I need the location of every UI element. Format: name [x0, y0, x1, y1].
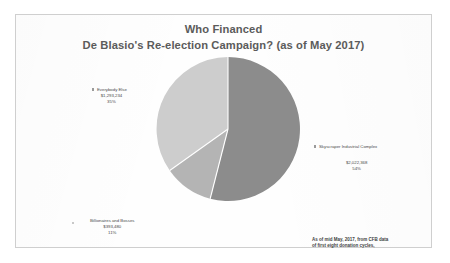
bullet-marker-icon	[72, 222, 74, 224]
pie-chart-svg	[155, 55, 301, 203]
chart-title-line-2: De Blasio's Re-election Campaign? (as of…	[16, 38, 431, 54]
bullet-marker-icon	[92, 88, 94, 90]
chart-footnote-line-2: of first eight donation cycles,	[312, 243, 388, 249]
pie-chart	[155, 55, 301, 203]
data-label-skyscraper-percent: 54%	[314, 166, 377, 172]
data-label-skyscraper-name: Skyscraper Industrial Complex	[314, 144, 377, 150]
chart-title: Who Financed De Blasio's Re-election Cam…	[16, 22, 431, 53]
data-label-billionaires: Billionaires and Bosses $393,480 11%	[90, 218, 134, 236]
chart-footnote: As of mid May, 2017, from CFB data of fi…	[312, 237, 388, 250]
data-label-everybody-else-percent: 35%	[92, 99, 127, 105]
data-label-billionaires-percent: 11%	[90, 230, 134, 236]
data-label-everybody-else: Everybody Else $1,293,234 35%	[92, 87, 127, 105]
chart-title-line-1: Who Financed	[185, 23, 263, 35]
data-label-skyscraper: Skyscraper Industrial Complex $2,022,368…	[314, 144, 377, 172]
bullet-marker-icon	[314, 145, 316, 147]
slide-frame: Who Financed De Blasio's Re-election Cam…	[15, 14, 432, 248]
